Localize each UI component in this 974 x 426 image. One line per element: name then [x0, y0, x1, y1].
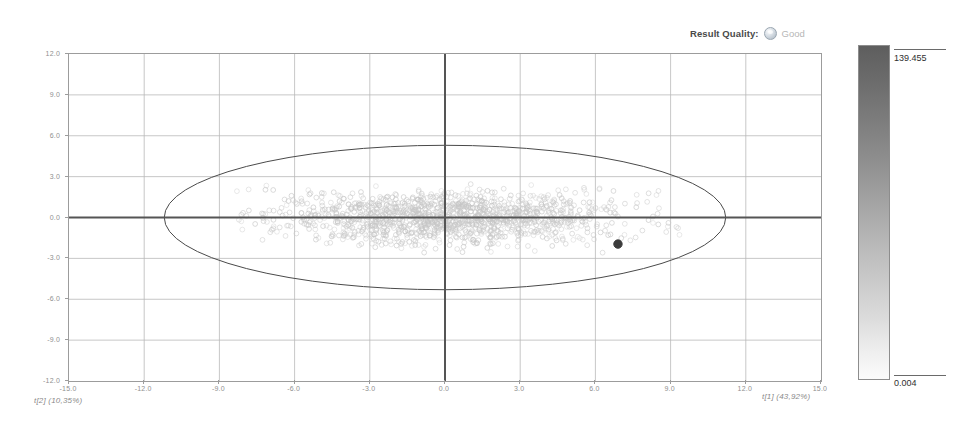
color-gradient-bar	[858, 45, 890, 380]
color-scale-max-tick	[894, 49, 946, 50]
x-tick-mark	[820, 380, 821, 384]
color-scale-max-label: 139.455	[894, 53, 927, 63]
scores-plot-panel: Result Quality: Good 12.09.06.03.00.0-3.…	[0, 0, 974, 426]
y-tick-label: -3.0	[22, 254, 60, 261]
x-tick-label: 6.0	[589, 385, 599, 392]
y-axis-title: t[2] (10,35%)	[34, 396, 82, 405]
x-tick-label: 15.0	[813, 385, 827, 392]
x-tick-mark	[670, 380, 671, 384]
x-tick-mark	[143, 380, 144, 384]
x-tick-label: -12.0	[135, 385, 152, 392]
y-tick-label: 9.0	[22, 90, 60, 97]
x-tick-label: -15.0	[60, 385, 77, 392]
x-tick-label: 9.0	[664, 385, 674, 392]
x-tick-label: -6.0	[287, 385, 300, 392]
y-tick-label: 3.0	[22, 172, 60, 179]
plot-canvas	[69, 54, 821, 381]
y-tick-mark	[65, 176, 69, 177]
plot-area[interactable]	[68, 53, 822, 382]
y-tick-mark	[65, 298, 69, 299]
y-tick-label: -9.0	[22, 336, 60, 343]
y-tick-mark	[65, 339, 69, 340]
y-tick-mark	[65, 53, 69, 54]
y-tick-label: 0.0	[22, 213, 60, 220]
x-tick-mark	[745, 380, 746, 384]
x-tick-mark	[294, 380, 295, 384]
x-tick-mark	[68, 380, 69, 384]
x-tick-label: 12.0	[738, 385, 752, 392]
x-tick-label: 0.0	[439, 385, 449, 392]
x-axis-title: t[1] (43,92%)	[762, 392, 810, 401]
color-scale-min-tick	[894, 375, 946, 376]
y-tick-label: -12.0	[22, 377, 60, 384]
y-tick-label: 12.0	[22, 50, 60, 57]
color-scale-legend: 139.455 0.004	[858, 45, 968, 385]
y-tick-mark	[65, 135, 69, 136]
y-tick-label: -6.0	[22, 295, 60, 302]
x-tick-mark	[519, 380, 520, 384]
x-tick-label: -3.0	[362, 385, 375, 392]
y-tick-mark	[65, 217, 69, 218]
y-tick-label: 6.0	[22, 131, 60, 138]
x-tick-mark	[444, 380, 445, 384]
y-tick-mark	[65, 94, 69, 95]
x-tick-mark	[594, 380, 595, 384]
x-tick-label: 3.0	[514, 385, 524, 392]
x-tick-mark	[218, 380, 219, 384]
color-scale-min-label: 0.004	[894, 378, 917, 388]
scatter-plot[interactable]: 12.09.06.03.00.0-3.0-6.0-9.0-12.0-15.0-1…	[0, 0, 860, 426]
x-tick-mark	[369, 380, 370, 384]
x-tick-label: -9.0	[212, 385, 225, 392]
y-tick-mark	[65, 257, 69, 258]
